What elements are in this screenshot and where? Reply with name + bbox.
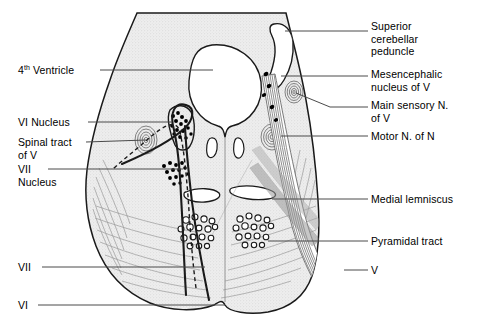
label-motor-n-of-n: Motor N. of N — [371, 130, 435, 143]
label-fourth-ventricle-text: Ventricle — [33, 64, 74, 76]
ordinal-suffix: th — [24, 64, 30, 71]
label-main-sensory-n-of-v: Main sensory N. of V — [371, 99, 448, 124]
label-pyramidal-tract: Pyramidal tract — [371, 235, 443, 248]
label-superior-cerebellar-peduncle: Superior cerebellar peduncle — [371, 20, 418, 58]
label-medial-lemniscus: Medial lemniscus — [371, 193, 453, 206]
medial-lemniscus-left — [184, 189, 220, 202]
paramedian-oval-left — [207, 138, 218, 158]
label-v-nerve-root: V — [371, 264, 378, 277]
label-vi-nucleus: VI Nucleus — [18, 116, 70, 129]
label-fourth-ventricle: 4th Ventricle — [18, 64, 74, 77]
label-vii-fibers: VII — [18, 261, 31, 274]
label-vi-fibers: VI — [18, 299, 28, 312]
figure-canvas: 4th Ventricle VI Nucleus Spinal tract of… — [0, 0, 477, 330]
paramedian-oval-right — [234, 138, 244, 158]
label-vii-nucleus: VII Nucleus — [18, 163, 57, 188]
label-spinal-tract-of-v: Spinal tract of V — [18, 136, 72, 161]
label-mesencephalic-nucleus-of-v: Mesencephalic nucleus of V — [371, 68, 442, 93]
